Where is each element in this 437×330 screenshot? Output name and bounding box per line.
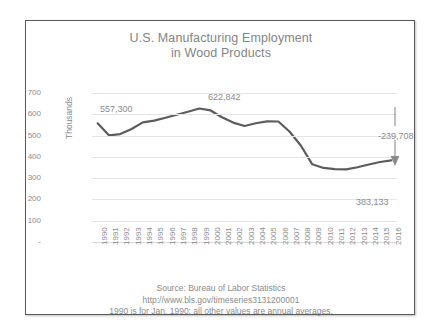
x-tick-label: 1999 (203, 227, 211, 245)
data-label-end-value: 383,133 (356, 197, 389, 207)
x-tick-label: 2011 (338, 228, 346, 245)
employment-line-series (92, 93, 397, 242)
footnote-line-2: http://www.bls.gov/timeseries3131200001 (26, 295, 416, 307)
x-tick-label: 2006 (282, 227, 290, 245)
x-tick-label: 2002 (236, 227, 244, 245)
x-tick-label: 1995 (157, 227, 165, 245)
x-tick-label: 2003 (248, 227, 256, 245)
chart-title-line-2: in Wood Products (26, 46, 416, 61)
x-tick-label: 1991 (112, 227, 120, 245)
gridline (92, 93, 397, 94)
gridline (92, 178, 397, 179)
footnote-line-1: Source: Bureau of Labor Statistics (26, 283, 416, 295)
footnote-line-3: 1990 is for Jan. 1990; all other values … (26, 306, 416, 318)
chart-title-line-1: U.S. Manufacturing Employment (26, 31, 416, 46)
x-tick-label: 2016 (395, 227, 403, 245)
gridline (92, 114, 397, 115)
y-tick-label: 700 (11, 89, 41, 97)
y-tick-label: 100 (11, 217, 41, 225)
y-tick-label: 500 (11, 132, 41, 140)
x-tick-label: 1996 (169, 227, 177, 245)
x-tick-label: 2015 (383, 227, 391, 245)
y-tick-label: 300 (11, 174, 41, 182)
x-axis-tick-labels: 1990199119921993199419951996199719981999… (92, 245, 397, 281)
y-tick-label: 600 (11, 110, 41, 118)
net-change-arrow-icon (388, 107, 402, 167)
x-tick-label: 2014 (372, 227, 380, 245)
y-axis-title: Thousands (64, 97, 74, 139)
x-tick-label: 1994 (146, 227, 154, 245)
x-tick-label: 2007 (293, 227, 301, 245)
gridline (92, 221, 397, 222)
x-tick-label: 1993 (135, 227, 143, 245)
chart-footnote: Source: Bureau of Labor Statistics http:… (26, 283, 416, 318)
plot-area (92, 93, 397, 242)
data-label-start-value: 557,300 (100, 104, 133, 114)
chart-frame: U.S. Manufacturing Employment in Wood Pr… (25, 20, 415, 315)
x-tick-label: 2010 (327, 227, 335, 245)
x-tick-label: 2008 (304, 227, 312, 245)
y-tick-label: - (11, 238, 41, 246)
x-tick-label: 2001 (225, 227, 233, 245)
x-tick-label: 2012 (349, 227, 357, 245)
x-tick-label: 2005 (270, 227, 278, 245)
chart-title: U.S. Manufacturing Employment in Wood Pr… (26, 31, 416, 61)
x-tick-label: 1990 (101, 227, 109, 245)
x-tick-label: 1997 (180, 227, 188, 245)
x-tick-label: 1992 (123, 227, 131, 245)
x-tick-label: 2009 (315, 227, 323, 245)
x-tick-label: 2013 (361, 227, 369, 245)
gridline (92, 157, 397, 158)
y-tick-label: 200 (11, 195, 41, 203)
gridline (92, 136, 397, 137)
x-tick-label: 1998 (191, 227, 199, 245)
x-tick-label: 2000 (214, 227, 222, 245)
data-label-peak-value: 622,842 (208, 92, 241, 102)
x-tick-label: 2004 (259, 227, 267, 245)
screenshot-canvas: U.S. Manufacturing Employment in Wood Pr… (0, 0, 437, 330)
y-tick-label: 400 (11, 153, 41, 161)
gridline (92, 199, 397, 200)
